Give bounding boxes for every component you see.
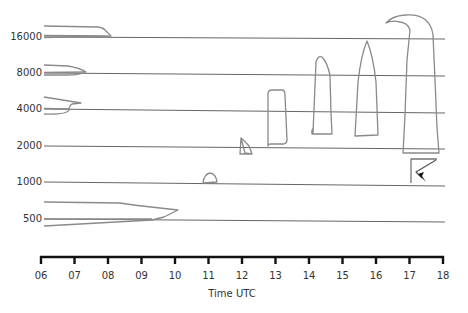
level-line-8000 — [44, 73, 445, 76]
tower-16 — [355, 41, 378, 136]
x-label-07: 07 — [68, 270, 81, 281]
y-label-500: 500 — [23, 213, 42, 224]
x-label-17: 17 — [403, 270, 416, 281]
y-label-4000: 4000 — [17, 103, 42, 114]
x-label-13: 13 — [269, 270, 282, 281]
x-label-09: 09 — [135, 270, 148, 281]
cloud-layer-4000 — [44, 97, 81, 114]
cumulus-11 — [203, 173, 217, 183]
x-label-14: 14 — [303, 270, 316, 281]
cloud-layer-low — [44, 202, 178, 226]
x-axis: 06 07 08 09 10 11 12 13 14 15 16 17 18 T… — [35, 257, 450, 299]
level-lines — [44, 37, 445, 222]
cumulus-12 — [240, 138, 252, 154]
x-label-06: 06 — [35, 270, 48, 281]
y-label-2000: 2000 — [17, 140, 42, 151]
x-label-10: 10 — [169, 270, 182, 281]
y-label-8000: 8000 — [17, 67, 42, 78]
cloud-layer-16000 — [44, 26, 111, 38]
wind-arrow-icon — [411, 159, 437, 183]
x-label-16: 16 — [370, 270, 383, 281]
level-line-2000 — [44, 146, 445, 149]
level-line-1000 — [44, 182, 445, 186]
cloud-shapes — [44, 15, 439, 226]
x-label-08: 08 — [102, 270, 115, 281]
cumulonimbus-17 — [386, 15, 439, 153]
level-line-16000 — [44, 37, 445, 39]
tower-13 — [268, 90, 287, 146]
x-label-11: 11 — [202, 270, 215, 281]
x-axis-title: Time UTC — [207, 288, 255, 299]
y-axis-labels: 16000 8000 4000 2000 1000 500 — [10, 31, 42, 224]
cloud-time-height-chart: 16000 8000 4000 2000 1000 500 — [0, 0, 468, 313]
level-line-4000 — [44, 109, 445, 113]
x-label-15: 15 — [336, 270, 349, 281]
y-label-1000: 1000 — [17, 176, 42, 187]
tower-14 — [312, 57, 332, 134]
x-label-18: 18 — [437, 270, 450, 281]
y-label-16000: 16000 — [10, 31, 42, 42]
x-label-12: 12 — [236, 270, 249, 281]
